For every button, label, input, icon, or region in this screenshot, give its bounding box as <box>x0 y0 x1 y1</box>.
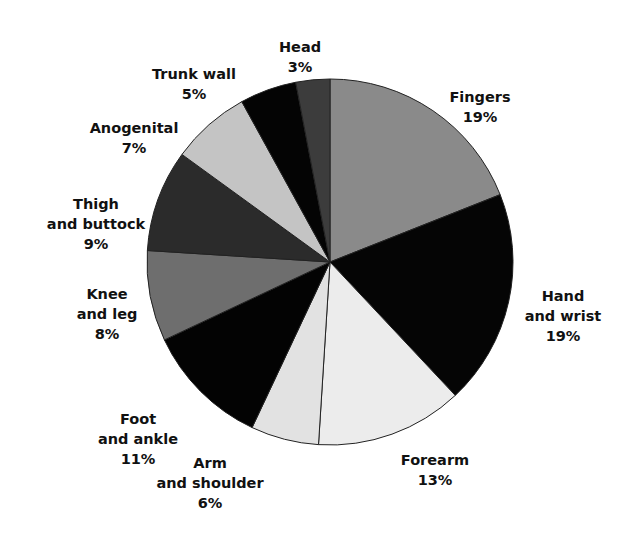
slice-percent: 5% <box>152 84 236 104</box>
slice-label-hand-and-wrist: Handand wrist19% <box>525 286 602 346</box>
slice-percent: 13% <box>401 470 469 490</box>
slice-label-fingers: Fingers19% <box>449 87 510 127</box>
slice-name: and leg <box>77 304 138 324</box>
slice-name: Thigh <box>47 194 145 214</box>
slice-percent: 3% <box>279 57 321 77</box>
slice-name: Foot <box>98 409 178 429</box>
slice-percent: 6% <box>156 493 263 513</box>
slice-label-anogenital: Anogenital7% <box>90 118 179 158</box>
slice-name: Knee <box>77 284 138 304</box>
slice-label-forearm: Forearm13% <box>401 450 469 490</box>
slice-label-head: Head3% <box>279 37 321 77</box>
slice-percent: 8% <box>77 324 138 344</box>
slice-name: Anogenital <box>90 118 179 138</box>
slice-label-foot-and-ankle: Footand ankle11% <box>98 409 178 469</box>
slice-name: and ankle <box>98 429 178 449</box>
slice-percent: 11% <box>98 449 178 469</box>
slice-percent: 7% <box>90 138 179 158</box>
pie-chart <box>0 0 633 539</box>
slice-name: and buttock <box>47 214 145 234</box>
slice-name: Hand <box>525 286 602 306</box>
slice-name: Forearm <box>401 450 469 470</box>
slice-percent: 19% <box>449 107 510 127</box>
slice-percent: 9% <box>47 234 145 254</box>
slice-name: and shoulder <box>156 473 263 493</box>
slice-label-trunk-wall: Trunk wall5% <box>152 64 236 104</box>
slice-percent: 19% <box>525 326 602 346</box>
slice-name: Fingers <box>449 87 510 107</box>
slice-name: Head <box>279 37 321 57</box>
slice-name: Trunk wall <box>152 64 236 84</box>
slice-label-thigh-and-buttock: Thighand buttock9% <box>47 194 145 254</box>
slice-name: and wrist <box>525 306 602 326</box>
slice-label-knee-and-leg: Kneeand leg8% <box>77 284 138 344</box>
